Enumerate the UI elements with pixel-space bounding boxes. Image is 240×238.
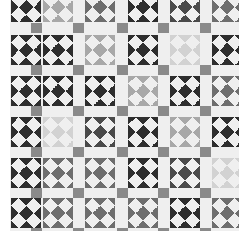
triangle-patch [26,132,34,140]
triangle-patch [11,15,19,23]
triangle-patch [100,7,108,15]
triangle-patch [43,173,51,181]
triangle-patch [108,35,116,43]
triangle-patch [136,43,144,51]
triangle-patch [26,99,34,107]
triangle-patch [51,58,59,66]
triangle-patch [143,7,151,15]
sashing-square [73,23,84,33]
sashing-square [117,23,128,33]
triangle-patch [227,76,235,84]
quilt-photo [10,0,239,231]
triangle-patch [128,50,136,58]
sashing-square [73,228,84,231]
triangle-patch [85,76,93,84]
triangle-patch [178,58,186,66]
triangle-patch [19,99,27,107]
triangle-patch [66,125,74,133]
triangle-patch [51,15,59,23]
triangle-patch [11,43,19,51]
triangle-patch [85,15,93,23]
triangle-patch [66,7,74,15]
triangle-patch [26,198,34,206]
triangle-patch [19,198,27,206]
triangle-patch [193,0,201,7]
triangle-patch [178,213,186,221]
triangle-patch [11,76,19,84]
pinwheel-block [170,198,200,228]
pinwheel-block [11,158,41,188]
triangle-patch [185,173,193,181]
triangle-patch [235,181,240,189]
triangle-patch [185,58,193,66]
triangle-patch [43,50,51,58]
triangle-patch [100,140,108,148]
triangle-patch [26,221,34,229]
triangle-patch [185,125,193,133]
sashing-square [158,147,169,157]
triangle-patch [43,181,51,189]
pinwheel-block [11,76,41,106]
triangle-patch [19,35,27,43]
sashing-square [200,188,211,198]
triangle-patch [128,181,136,189]
triangle-patch [93,91,101,99]
triangle-patch [193,181,201,189]
triangle-patch [51,91,59,99]
triangle-patch [185,76,193,84]
triangle-patch [34,76,42,84]
triangle-patch [193,125,201,133]
triangle-patch [235,125,240,133]
triangle-patch [19,76,27,84]
triangle-patch [136,58,144,66]
triangle-patch [227,173,235,181]
triangle-patch [193,15,201,23]
triangle-patch [227,15,235,23]
triangle-patch [85,35,93,43]
triangle-patch [51,0,59,7]
triangle-patch [108,158,116,166]
triangle-patch [58,206,66,214]
triangle-patch [34,221,42,229]
triangle-patch [151,50,159,58]
sashing-square [158,65,169,75]
triangle-patch [193,50,201,58]
triangle-patch [136,84,144,92]
triangle-patch [19,58,27,66]
triangle-patch [136,198,144,206]
triangle-patch [227,198,235,206]
triangle-patch [185,198,193,206]
triangle-patch [34,198,42,206]
triangle-patch [170,181,178,189]
triangle-patch [100,117,108,125]
triangle-patch [128,173,136,181]
triangle-patch [235,58,240,66]
triangle-patch [58,0,66,7]
triangle-patch [151,76,159,84]
triangle-patch [85,7,93,15]
triangle-patch [19,0,27,7]
triangle-patch [151,117,159,125]
triangle-patch [66,166,74,174]
triangle-patch [51,99,59,107]
triangle-patch [178,198,186,206]
triangle-patch [193,198,201,206]
triangle-patch [136,35,144,43]
triangle-patch [178,91,186,99]
triangle-patch [235,132,240,140]
triangle-patch [34,7,42,15]
triangle-patch [66,181,74,189]
pinwheel-block [128,117,158,147]
triangle-patch [220,181,228,189]
triangle-patch [43,15,51,23]
triangle-patch [143,158,151,166]
triangle-patch [185,50,193,58]
sashing-square [158,188,169,198]
triangle-patch [11,221,19,229]
triangle-patch [66,198,74,206]
sashing-square [31,147,42,157]
sashing-square [200,23,211,33]
triangle-patch [235,221,240,229]
triangle-patch [170,43,178,51]
triangle-patch [143,91,151,99]
